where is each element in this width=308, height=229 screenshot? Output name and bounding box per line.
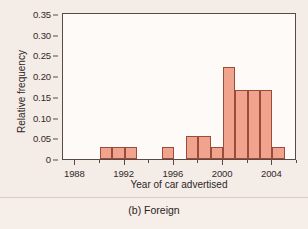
histogram-bar [112,147,124,159]
y-axis-tick-label: 0.10 [33,114,51,124]
figure-area: Relative frequency 00.050.100.150.200.25… [0,0,308,197]
histogram-bar [235,90,247,159]
x-axis-title: Year of car advertised [62,179,296,190]
x-axis-tick-label: 2000 [212,169,233,179]
histogram-bar [162,147,174,159]
y-axis-tick [53,160,58,161]
x-axis-tick [74,160,75,165]
y-axis: 00.050.100.150.200.250.300.35 [0,13,58,160]
caption-divider [0,197,308,198]
x-axis-tick [247,160,248,163]
y-axis-tick [53,97,58,98]
y-axis-tick [53,15,58,16]
histogram-bar [223,67,235,159]
y-axis-tick-label: 0.25 [33,52,51,62]
x-axis-tick-label: 2004 [261,169,282,179]
x-axis-tick [222,160,223,165]
x-axis-tick [124,160,125,165]
y-axis-tick-label: 0 [46,155,51,165]
plot-area [62,13,296,160]
y-axis-tick-label: 0.05 [33,135,51,145]
histogram-bar [248,90,260,159]
bars-container [63,14,295,159]
x-axis: 19881992199620002004 [62,160,296,180]
x-axis-tick [99,160,100,163]
histogram-bar [198,136,210,159]
x-axis-tick-label: 1988 [64,169,85,179]
x-axis-tick-label: 1992 [113,169,134,179]
histogram-bar [272,147,284,159]
histogram-bar [260,90,272,159]
x-axis-tick [173,160,174,165]
x-axis-tick [148,160,149,163]
y-axis-tick-label: 0.15 [33,93,51,103]
histogram-bar [125,147,137,159]
x-axis-tick-label: 1996 [162,169,183,179]
y-axis-tick [53,35,58,36]
y-axis-tick-label: 0.35 [33,10,51,20]
histogram-bar [211,147,223,159]
figure-page: Relative frequency 00.050.100.150.200.25… [0,0,308,229]
x-axis-tick [296,160,297,163]
y-axis-tick [53,56,58,57]
x-axis-tick [197,160,198,163]
y-axis-tick-label: 0.20 [33,72,51,82]
y-axis-tick-label: 0.30 [33,31,51,41]
y-axis-tick [53,118,58,119]
x-axis-tick [271,160,272,165]
histogram-bar [100,147,112,159]
y-axis-tick [53,139,58,140]
figure-caption: (b) Foreign [0,204,308,216]
histogram-bar [186,136,198,159]
y-axis-tick [53,77,58,78]
